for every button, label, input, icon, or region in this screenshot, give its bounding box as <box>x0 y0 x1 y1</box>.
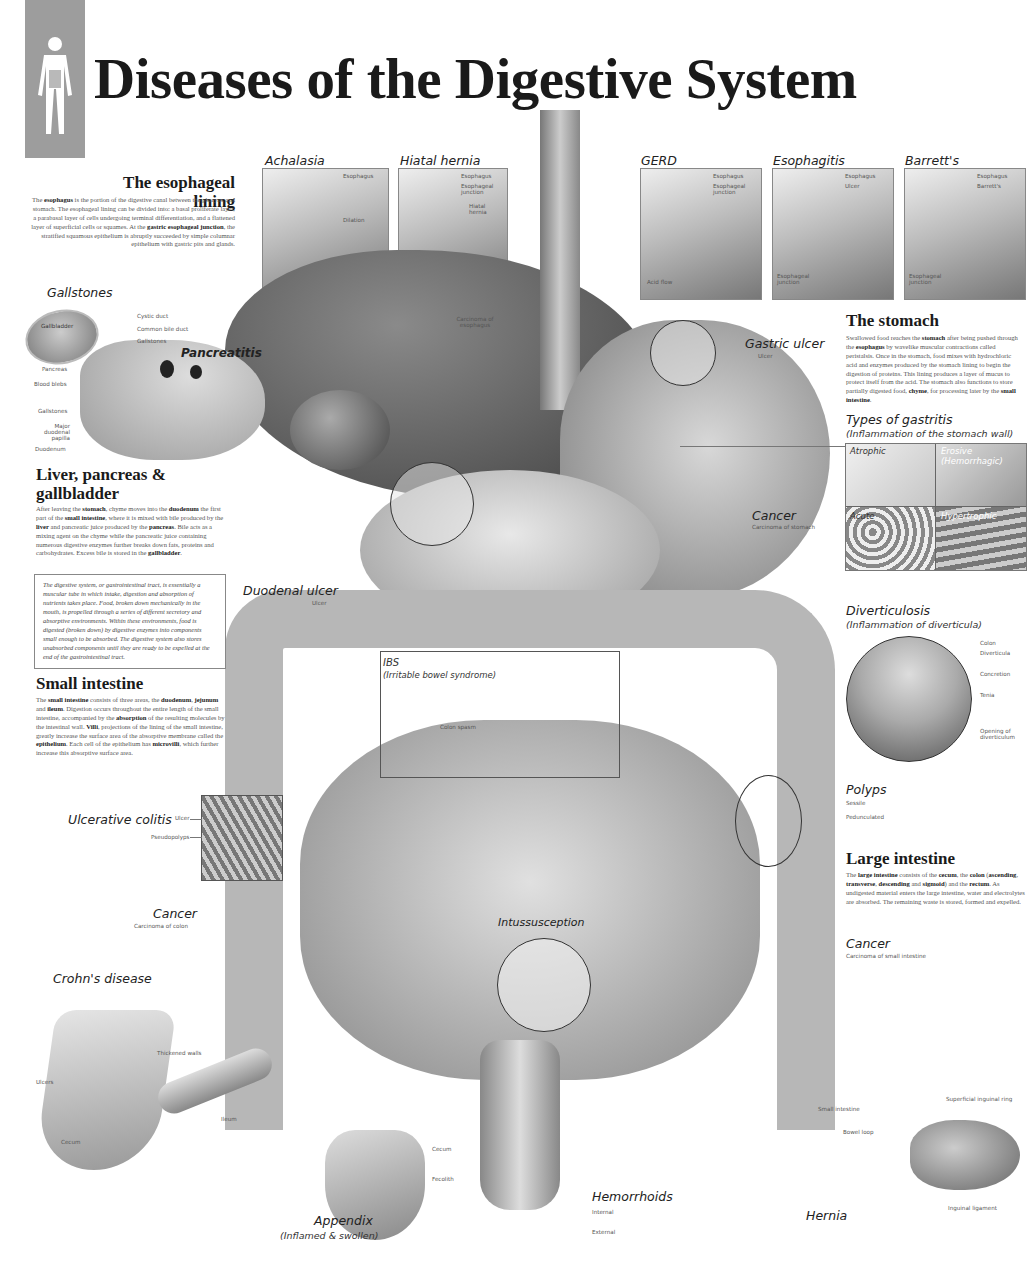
gerd-title: GERD <box>641 153 677 168</box>
gastritis-hypertrophic: Hypertrophic <box>936 507 1026 570</box>
duodenal-ulcer-sub: Ulcer <box>312 600 326 606</box>
small-intestine-heading: Small intestine <box>36 675 143 694</box>
small-intestine-cancer-title: Cancer <box>846 936 890 951</box>
intussusception-inset <box>497 938 591 1032</box>
gerd-panel: Esophagus Esophageal junction Acid flow <box>640 168 762 300</box>
digestive-system-note: The digestive system, or gastrointestina… <box>34 574 226 669</box>
esophagitis-title: Esophagitis <box>773 153 845 168</box>
esophageal-lining-text: The esophagus is the portion of the dige… <box>30 196 235 249</box>
gastritis-acute: Acute <box>846 507 936 570</box>
appendix-subtitle: (Inflamed & swollen) <box>280 1230 378 1241</box>
large-intestine-text: The large intestine consists of the cecu… <box>846 871 1026 907</box>
pancreatitis-title: Pancreatitis <box>181 346 262 360</box>
colon-cancer-sub: Carcinoma of colon <box>134 923 188 929</box>
carcinoma-esophagus-label: Carcinoma of esophagus <box>455 316 495 328</box>
diverticulosis-subtitle: (Inflammation of diverticula) <box>846 619 982 630</box>
page-title: Diseases of the Digestive System <box>94 50 857 107</box>
duodenal-ulcer-inset <box>390 462 474 546</box>
gastritis-atrophic: Atrophic <box>846 444 936 507</box>
appendix-title: Appendix <box>314 1213 373 1228</box>
gastric-ulcer-title: Gastric ulcer <box>745 336 824 351</box>
gastritis-grid: Atrophic Erosive (Hemorrhagic) Acute Hyp… <box>845 443 1027 571</box>
diverticulosis-title: Diverticulosis <box>846 603 930 618</box>
esophagus-illustration <box>540 110 580 410</box>
ulcerative-colitis-title: Ulcerative colitis <box>68 812 172 827</box>
small-intestine-text: The small intestine consists of three ar… <box>36 696 226 758</box>
stomach-text: Swallowed food reaches the stomach after… <box>846 334 1022 405</box>
liver-section-heading: Liver, pancreas & gallbladder <box>36 466 216 503</box>
gastritis-title: Types of gastritis <box>846 412 953 427</box>
large-intestine-heading: Large intestine <box>846 850 955 869</box>
polyps-inset <box>735 775 802 867</box>
small-intestine-cancer-sub: Carcinoma of small intestine <box>846 953 926 959</box>
hernia-title: Hernia <box>806 1208 847 1223</box>
stomach-cancer-sub: Carcinoma of stomach <box>752 524 815 530</box>
stomach-heading: The stomach <box>846 312 939 331</box>
gastritis-subtitle: (Inflammation of the stomach wall) <box>846 428 1013 439</box>
stomach-cancer-title: Cancer <box>752 508 796 523</box>
duodenal-ulcer-title: Duodenal ulcer <box>243 583 338 598</box>
human-body-silhouette-icon <box>25 0 85 158</box>
achalasia-title: Achalasia <box>265 153 325 168</box>
liver-section-text: After leaving the stomach, chyme moves i… <box>36 505 224 558</box>
colon-cancer-title: Cancer <box>153 906 197 921</box>
hemorrhoids-title: Hemorrhoids <box>592 1189 673 1204</box>
diverticulosis-inset <box>846 636 972 762</box>
polyps-title: Polyps <box>846 782 887 797</box>
crohns-cecum-drawing <box>34 1010 176 1170</box>
blood-bleb-1 <box>160 360 174 378</box>
hernia-drawing <box>910 1120 1020 1190</box>
ibs-title: IBS <box>383 657 399 668</box>
ulcerative-colitis-inset <box>201 795 283 881</box>
barretts-title: Barrett's <box>905 153 959 168</box>
gastritis-erosive: Erosive (Hemorrhagic) <box>936 444 1026 507</box>
gallbladder-illustration <box>290 390 390 470</box>
crohns-title: Crohn's disease <box>53 971 152 986</box>
esophagitis-panel: Esophagus Ulcer Esophageal junction <box>772 168 894 300</box>
blood-bleb-2 <box>190 365 202 379</box>
gastric-ulcer-sub: Ulcer <box>758 353 772 359</box>
colon-spasm-label: Colon spasm <box>440 724 476 730</box>
gallstones-title: Gallstones <box>47 285 112 300</box>
logo-panel <box>25 0 85 158</box>
barretts-panel: Esophagus Barrett's Esophageal junction <box>904 168 1026 300</box>
gastric-ulcer-inset <box>650 320 716 386</box>
rectum-illustration <box>480 1040 560 1210</box>
hiatal-hernia-title: Hiatal hernia <box>400 153 480 168</box>
ibs-subtitle: (Irritable bowel syndrome) <box>383 670 496 680</box>
intussusception-title: Intussusception <box>498 916 585 929</box>
